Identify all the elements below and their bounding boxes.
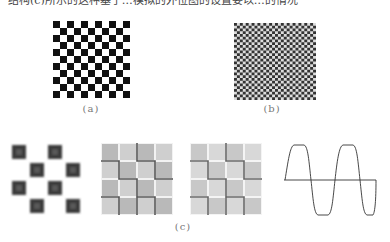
- checkerboard-b-graphic: [234, 23, 316, 100]
- top-text-cut-off: 结构(c)所示的这种基于…模拟的外位图的设置要以…的情况: [8, 0, 388, 5]
- blurred-squares-graphic: [10, 143, 82, 217]
- caption-a: (a): [71, 103, 111, 114]
- panel-c4-waveform: [280, 140, 380, 222]
- caption-c: (c): [163, 221, 203, 232]
- panel-b-fine-checkerboard: [234, 23, 316, 100]
- checkerboard-a-graphic: [53, 21, 130, 98]
- panel-c3-gray-tiles-variant: [190, 143, 262, 215]
- gray-tiles-variant-graphic: [190, 143, 262, 215]
- panel-c1-blurred-squares: [10, 143, 82, 217]
- waveform-graphic: [280, 140, 380, 222]
- panel-a-coarse-checkerboard: [53, 21, 130, 98]
- gray-tiles-graphic: [101, 143, 173, 215]
- caption-b: (b): [252, 103, 292, 114]
- panel-c2-gray-tiles: [101, 143, 173, 215]
